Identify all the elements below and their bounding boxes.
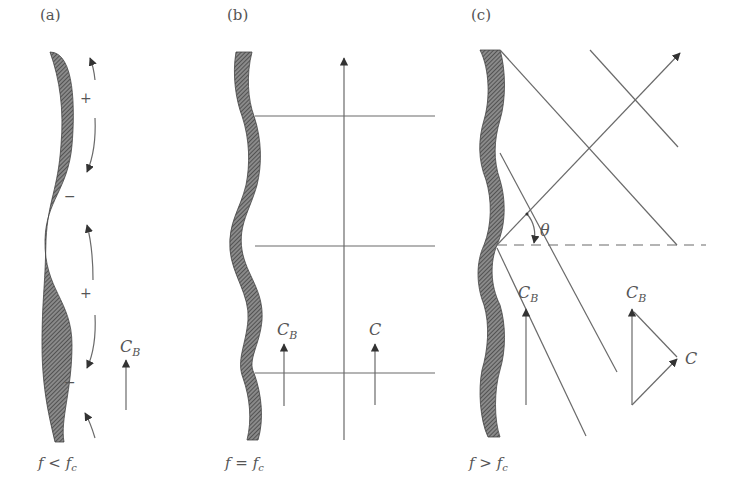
cb-label-b: CB bbox=[277, 320, 297, 342]
c-vector-triangle bbox=[632, 359, 677, 405]
propagation-ray-c bbox=[497, 53, 680, 245]
theta-label: θ bbox=[540, 221, 550, 240]
wavefront-diag-4 bbox=[497, 248, 586, 436]
charge-minus-1: − bbox=[64, 188, 76, 204]
panel-a-label: (a) bbox=[40, 6, 61, 24]
current-arrow-3 bbox=[87, 225, 93, 280]
waveguide-wall-c bbox=[478, 50, 505, 437]
panel-a: (a) + − + − CB f < fc bbox=[37, 6, 140, 473]
charge-plus-2: + bbox=[80, 285, 92, 301]
panel-b-label: (b) bbox=[227, 6, 248, 24]
c-label-b: C bbox=[369, 320, 381, 339]
wavefront-diag-2 bbox=[590, 50, 678, 147]
angle-arc bbox=[527, 214, 535, 243]
c-label-triangle: C bbox=[685, 349, 697, 368]
panel-c-label: (c) bbox=[471, 6, 491, 24]
diagram-canvas: (a) + − + − CB f < fc (b) CB bbox=[0, 0, 738, 494]
triangle-side bbox=[634, 312, 677, 357]
panel-c: (c) θ CB CB C f > fc bbox=[468, 6, 706, 473]
condition-a: f < fc bbox=[37, 454, 77, 473]
panel-b: (b) CB C f = fc bbox=[224, 6, 435, 473]
cb-label-triangle: CB bbox=[626, 283, 646, 305]
cb-label-a: CB bbox=[120, 337, 140, 359]
condition-c: f > fc bbox=[468, 454, 508, 473]
angle-arc-dot bbox=[526, 213, 529, 216]
condition-b: f = fc bbox=[224, 454, 264, 473]
wavefront-diag-1 bbox=[500, 50, 677, 245]
wavefront-diag-3 bbox=[500, 153, 617, 372]
current-arrow-2 bbox=[87, 118, 95, 172]
current-arrow-1 bbox=[90, 58, 95, 80]
current-arrow-5 bbox=[85, 413, 95, 438]
current-arrow-4 bbox=[87, 315, 95, 368]
cb-label-c: CB bbox=[518, 283, 538, 305]
charge-plus-1: + bbox=[80, 90, 92, 106]
charge-minus-2: − bbox=[64, 374, 76, 390]
